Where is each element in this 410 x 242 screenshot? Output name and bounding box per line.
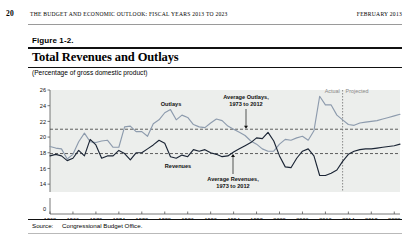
figure-number: Figure 1-2. [32,36,74,45]
figure-block: Figure 1-2. Total Revenues and Outlays (… [28,36,402,236]
running-head: 20 THE BUDGET AND ECONOMIC OUTLOOK: FISC… [0,9,410,21]
source-label: Source: [32,222,62,229]
y-tick-label: 16 [40,166,46,172]
running-head-date: FEBRUARY 2013 [357,11,402,17]
running-head-title: THE BUDGET AND ECONOMIC OUTLOOK: FISCAL … [30,11,228,17]
figure-top-rule [28,47,402,49]
y-tick-label: 22 [40,119,46,125]
chart-svg: 1416182022242601962196619701974197819821… [28,84,402,220]
annotation-average-revenues: Average Revenues, [207,176,259,182]
annotation-outlays: Outlays [161,101,182,107]
y-tick-label: 14 [40,181,46,187]
figure-footer-rule [28,233,402,234]
y-tick-label: 24 [40,103,46,109]
annotation-revenues: Revenues [165,163,191,169]
annotation-average-outlays: Average Outlays, [223,94,269,100]
source-text: Congressional Budget Office. [62,222,142,229]
annotation-projected: Projected [346,88,369,94]
y-tick-label: 20 [40,134,46,140]
chart-plot-area: 1416182022242601962196619701974197819821… [28,84,402,220]
figure-title-rule [28,67,402,68]
figure-units: (Percentage of gross domestic product) [32,69,147,76]
figure-title: Total Revenues and Outlays [32,50,179,65]
y-tick-label: 18 [40,150,46,156]
y-tick-label: 26 [40,87,46,93]
page-number: 20 [6,9,14,18]
source-note: Source:Congressional Budget Office. [32,222,142,229]
running-head-divider [28,24,402,25]
annotation-average-outlays-years: 1973 to 2012 [229,101,262,107]
y-tick-label-zero: 0 [43,206,46,212]
figure-bottom-rule [28,219,402,220]
page: 20 THE BUDGET AND ECONOMIC OUTLOOK: FISC… [0,0,410,242]
annotation-average-revenues-years: 1973 to 2012 [216,183,249,189]
annotation-actual: Actual [325,88,340,94]
